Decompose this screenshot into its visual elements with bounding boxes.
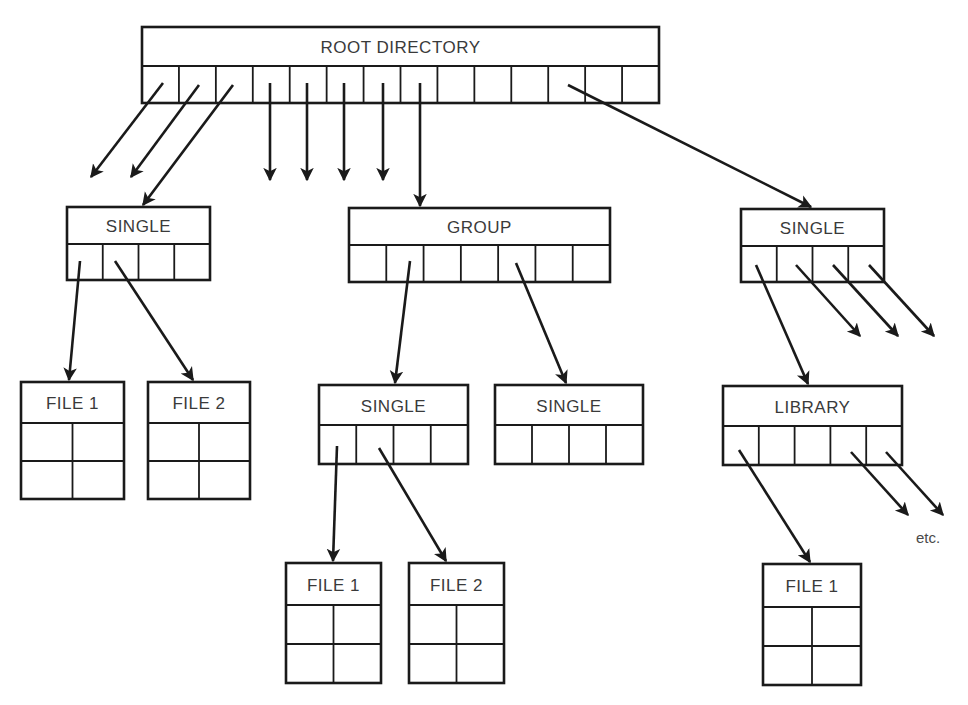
- box-label: ROOT DIRECTORY: [320, 38, 480, 57]
- directory-box-single-d: SINGLE: [495, 385, 643, 464]
- directory-box-library: LIBRARY: [723, 386, 902, 465]
- file-box-file-a1: FILE 1: [21, 382, 124, 499]
- pointer-arrow-to-single-b: [568, 85, 811, 207]
- box-label: FILE 1: [46, 394, 99, 413]
- pointer-arrow: [869, 265, 934, 336]
- directory-tree-diagram: ROOT DIRECTORYSINGLEGROUPSINGLEFILE 1FIL…: [0, 0, 968, 705]
- pointer-arrow: [886, 452, 943, 515]
- box-label: FILE 2: [430, 576, 483, 595]
- file-box-file-a2: FILE 2: [148, 382, 250, 499]
- directory-box-single-b: SINGLE: [741, 209, 884, 282]
- etc-note: etc.: [916, 529, 940, 546]
- box-label: GROUP: [447, 218, 512, 237]
- box-label: FILE 1: [785, 577, 838, 596]
- directory-box-single-c: SINGLE: [319, 385, 468, 464]
- directory-box-single-a: SINGLE: [67, 207, 210, 280]
- file-box-file-c2: FILE 2: [409, 563, 504, 683]
- file-box-file-c1: FILE 1: [286, 563, 381, 683]
- box-label: SINGLE: [536, 397, 601, 416]
- file-box-file-l1: FILE 1: [763, 564, 861, 685]
- box-label: LIBRARY: [775, 398, 851, 417]
- directory-box-group: GROUP: [349, 208, 610, 282]
- boxes-layer: ROOT DIRECTORYSINGLEGROUPSINGLEFILE 1FIL…: [21, 27, 902, 685]
- pointer-arrow: [91, 83, 163, 177]
- box-label: FILE 1: [307, 576, 360, 595]
- box-label: FILE 2: [172, 394, 225, 413]
- box-label: SINGLE: [106, 217, 171, 236]
- box-label: SINGLE: [361, 397, 426, 416]
- pointer-arrow-to-file-l1: [739, 450, 810, 562]
- box-label: SINGLE: [780, 219, 845, 238]
